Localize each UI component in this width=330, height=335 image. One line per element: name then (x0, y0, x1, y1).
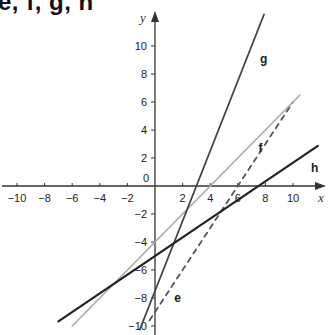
label-g: g (260, 52, 267, 66)
x-tick-label: 4 (207, 192, 213, 204)
x-axis-label: x (317, 190, 324, 205)
label-h: h (311, 161, 318, 175)
x-tick-label: 10 (287, 192, 299, 204)
y-tick-label: −10 (128, 320, 147, 332)
x-axis-arrow-icon (315, 182, 326, 190)
y-tick-label: 8 (141, 68, 147, 80)
y-tick-label: 6 (141, 96, 147, 108)
x-tick-label: 8 (262, 192, 268, 204)
y-axis-arrow-icon (151, 11, 159, 22)
y-tick-label: 2 (141, 152, 147, 164)
x-tick-label: −2 (121, 192, 134, 204)
line-g (140, 15, 264, 330)
label-f: f (259, 141, 264, 155)
label-e: e (174, 291, 181, 305)
y-tick-label: 10 (135, 40, 147, 52)
line-h (58, 146, 317, 322)
series-labels: efgh (174, 52, 318, 305)
y-axis-label: y (138, 10, 146, 25)
y-tick-label: −2 (134, 208, 147, 220)
x-tick-label: −10 (8, 192, 27, 204)
series-lines (58, 15, 317, 330)
x-tick-label: −8 (38, 192, 51, 204)
x-tick-label: 0 (143, 172, 149, 184)
x-tick-label: −4 (94, 192, 107, 204)
y-tick-label: −8 (134, 292, 147, 304)
y-tick-label: −4 (134, 236, 147, 248)
line-plot: xy−10−8−6−4−20246810−10−8−6−4−2246810 ef… (0, 0, 330, 335)
y-tick-label: 4 (141, 124, 147, 136)
x-tick-label: −6 (66, 192, 79, 204)
x-tick-label: 2 (180, 192, 186, 204)
